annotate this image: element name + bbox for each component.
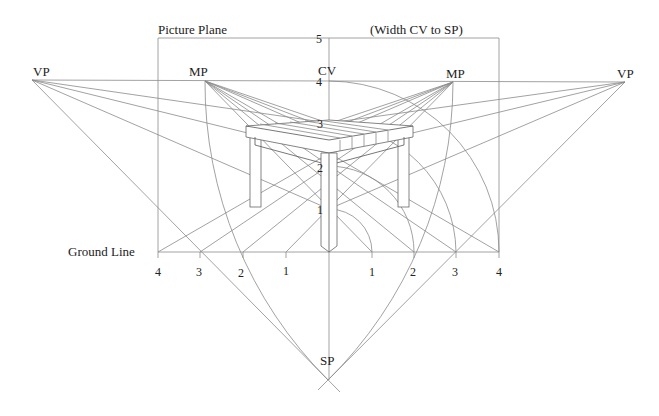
cv-label: CV (318, 63, 337, 78)
ground-scale-right-2: 2 (410, 265, 416, 279)
ground-scale-left-4: 4 (155, 265, 161, 279)
right-vp-lines (329, 82, 625, 209)
sp-label: SP (320, 353, 334, 368)
vertical-scale-3: 3 (317, 117, 323, 131)
vp-left-label: VP (33, 64, 50, 79)
ground-scale-right-3: 3 (452, 265, 458, 279)
ground-line-label: Ground Line (68, 244, 135, 259)
two-point-perspective-diagram: 1 2 3 4 5 1 2 3 4 1 2 3 4 Picture Plane … (0, 0, 659, 416)
ground-scale-left-3: 3 (196, 265, 202, 279)
ground-scale-left-1: 1 (283, 264, 289, 278)
vertical-scale-2: 2 (317, 161, 323, 175)
ground-scale-left-2: 2 (238, 266, 244, 280)
left-mp-fan (205, 81, 499, 252)
ground-scale-right-4: 4 (496, 265, 502, 279)
vertical-scale-5: 5 (316, 32, 322, 46)
vertical-scale-1: 1 (317, 203, 323, 217)
picture-plane-label: Picture Plane (158, 22, 227, 37)
width-note-label: (Width CV to SP) (370, 22, 463, 37)
ground-ticks (158, 252, 499, 258)
mp-left-label: MP (189, 64, 208, 79)
mp-right-label: MP (446, 66, 465, 81)
horizon-line (32, 80, 625, 82)
table-drawing (246, 120, 413, 252)
vp-right-label: VP (617, 66, 634, 81)
ground-scale-right-1: 1 (369, 265, 375, 279)
